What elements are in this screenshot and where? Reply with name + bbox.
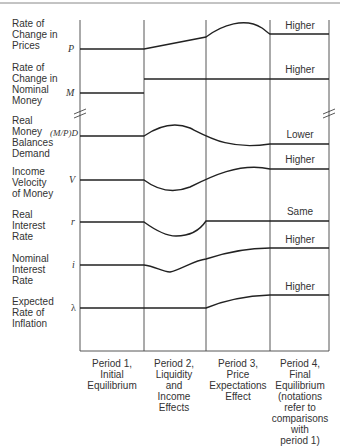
period-2-label: Period 2, Liquidity and Income Effects xyxy=(143,358,205,413)
result-real-interest: Same xyxy=(270,206,330,217)
row-label-real-interest: Real Interest Rate xyxy=(12,209,72,242)
result-expected-inflation: Higher xyxy=(270,281,330,292)
result-real-money-demand: Lower xyxy=(270,129,330,140)
row-label-velocity: Income Velocity of Money xyxy=(12,166,72,199)
row-label-nominal-interest: Nominal Interest Rate xyxy=(12,253,72,286)
result-nominal-interest: Higher xyxy=(270,234,330,245)
period-3-label: Period 3, Price Expectations Effect xyxy=(204,358,272,402)
symbol-m: M xyxy=(66,87,74,98)
symbol-real-money-demand: (M/P)D xyxy=(50,128,78,138)
row-label-nominal-money: Rate of Change in Nominal Money xyxy=(12,62,72,106)
result-velocity: Higher xyxy=(270,154,330,165)
symbol-v: V xyxy=(69,174,75,185)
result-nominal-money: Higher xyxy=(270,64,330,75)
symbol-r: r xyxy=(71,216,75,227)
symbol-p: P xyxy=(68,43,74,54)
row-label-prices: Rate of Change in Prices xyxy=(12,18,72,51)
period-4-label: Period 4, Final Equilibrium (notations r… xyxy=(268,358,332,446)
result-prices: Higher xyxy=(270,20,330,31)
row-label-expected-inflation: Expected Rate of Inflation xyxy=(12,296,72,329)
axis-break-icon xyxy=(74,109,335,118)
symbol-lambda: λ xyxy=(71,302,76,313)
symbol-i: i xyxy=(72,259,75,270)
period-1-label: Period 1, Initial Equilibrium xyxy=(80,358,144,391)
